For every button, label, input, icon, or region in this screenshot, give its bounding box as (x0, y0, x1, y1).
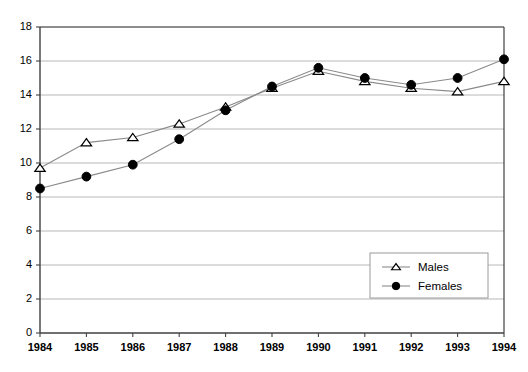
data-point-females-1994 (500, 55, 509, 64)
legend: MalesFemales (370, 253, 488, 298)
y-axis-label-8: 8 (26, 190, 32, 202)
y-axis-label-2: 2 (26, 292, 32, 304)
legend-marker-females (392, 282, 399, 289)
x-axis-label-1986: 1986 (121, 341, 145, 353)
x-axis-label-1987: 1987 (167, 341, 191, 353)
y-axis: 024681012141618 (20, 20, 40, 338)
data-point-females-1992 (407, 80, 416, 89)
legend-label-females: Females (418, 280, 462, 292)
y-axis-label-10: 10 (20, 156, 32, 168)
x-axis: 1984198519861987198819891990199119921993… (28, 333, 517, 353)
line-chart: 0246810121416181984198519861987198819891… (0, 0, 528, 372)
y-axis-label-0: 0 (26, 326, 32, 338)
data-point-females-1989 (268, 82, 277, 91)
data-point-females-1985 (82, 172, 91, 181)
legend-label-males: Males (418, 261, 449, 273)
data-point-females-1986 (128, 160, 137, 169)
y-axis-label-6: 6 (26, 224, 32, 236)
x-axis-label-1990: 1990 (306, 341, 330, 353)
x-axis-label-1984: 1984 (28, 341, 53, 353)
y-axis-label-4: 4 (26, 258, 32, 270)
data-point-females-1993 (453, 74, 462, 83)
data-point-females-1988 (221, 106, 230, 115)
x-axis-label-1988: 1988 (213, 341, 237, 353)
x-axis-label-1994: 1994 (492, 341, 517, 353)
x-axis-label-1992: 1992 (399, 341, 423, 353)
chart-canvas: 0246810121416181984198519861987198819891… (0, 0, 528, 372)
y-axis-label-16: 16 (20, 54, 32, 66)
x-axis-label-1991: 1991 (353, 341, 377, 353)
y-axis-label-12: 12 (20, 122, 32, 134)
y-axis-label-14: 14 (20, 88, 32, 100)
x-axis-label-1993: 1993 (445, 341, 469, 353)
data-point-females-1991 (360, 74, 369, 83)
data-point-females-1987 (175, 135, 184, 144)
x-axis-label-1989: 1989 (260, 341, 284, 353)
x-axis-label-1985: 1985 (74, 341, 98, 353)
data-point-females-1990 (314, 63, 323, 72)
y-axis-label-18: 18 (20, 20, 32, 32)
data-point-females-1984 (36, 184, 45, 193)
